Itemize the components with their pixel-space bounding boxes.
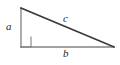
right-triangle-figure: a c b: [0, 0, 120, 65]
right-angle-marker-icon: [21, 37, 31, 47]
triangle-drawing: [0, 0, 120, 65]
side-label-a: a: [6, 21, 12, 32]
side-label-b: b: [63, 48, 69, 59]
side-label-c: c: [63, 13, 68, 24]
